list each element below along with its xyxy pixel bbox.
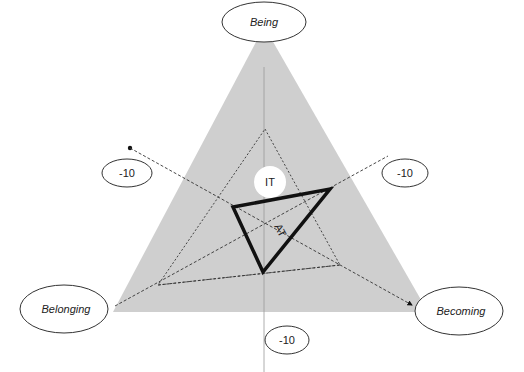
- left-value-label: -10: [119, 167, 135, 179]
- bottom-value-label: -10: [279, 334, 295, 346]
- becoming-label: Becoming: [437, 305, 487, 317]
- it-label: IT: [265, 176, 275, 188]
- diagram-canvas: IT AT Being -10 -10 Belonging Becoming -…: [0, 0, 524, 372]
- being-label: Being: [250, 16, 279, 28]
- triangle-diagram: IT AT Being -10 -10 Belonging Becoming -…: [0, 0, 524, 372]
- belonging-label: Belonging: [42, 303, 92, 315]
- right-value-label: -10: [397, 167, 413, 179]
